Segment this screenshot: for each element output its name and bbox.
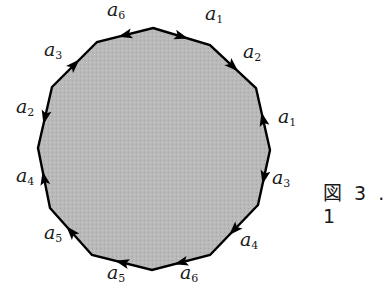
edge-label: a4 [16, 164, 34, 188]
edge-label: a6 [107, 0, 125, 22]
figure-caption: 図 3 . 1 [323, 178, 388, 227]
edge-label: a6 [180, 261, 198, 284]
edge-label: a3 [44, 38, 62, 62]
edge-label: a3 [272, 166, 290, 190]
edge-label: a1 [278, 105, 296, 129]
edge-label: a4 [240, 228, 258, 252]
edge-label: a5 [44, 221, 62, 245]
edge-label: a2 [16, 95, 34, 119]
edge-label: a1 [205, 2, 223, 26]
edge-label: a2 [243, 40, 261, 64]
polygon-diagram: a1a2a1a3a4a6a5a5a4a2a3a6 [0, 0, 388, 284]
